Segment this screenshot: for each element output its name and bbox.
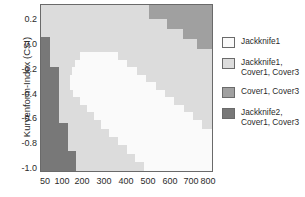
x-tick-label: 50 — [40, 176, 50, 187]
legend-swatch-icon — [222, 87, 235, 98]
legend-item[interactable]: Jackknife1 — [222, 36, 305, 48]
legend-item[interactable]: Jackknife1, Cover1, Cover3 — [222, 57, 305, 77]
x-axis-tick-labels: 50100200300400500600700800 — [0, 176, 305, 190]
legend-swatch-icon — [222, 37, 235, 48]
legend-item[interactable]: Cover1, Cover3 — [222, 86, 305, 98]
x-tick-label: 100 — [54, 176, 69, 187]
x-tick-label: 600 — [162, 176, 177, 187]
region-jackknife1-step — [135, 154, 212, 162]
region-jackknife1-step — [101, 120, 202, 128]
region-jackknife1-step — [73, 90, 164, 97]
chart-figure: Kurvenform-Index (CSI) 0.20.0-0.2-0.4-0.… — [0, 0, 305, 197]
region-cover1-cover3-step — [183, 29, 212, 39]
region-jackknife1-step — [80, 52, 118, 59]
region-jackknife1-step — [75, 60, 127, 67]
region-jackknife1-step — [94, 112, 193, 120]
y-tick-label: 0.0 — [24, 39, 37, 48]
region-jackknife1-step — [70, 75, 146, 82]
x-tick-label: 700 — [183, 176, 198, 187]
x-tick-label: 400 — [118, 176, 133, 187]
region-jackknife1-step — [72, 67, 137, 74]
region-jackknife2-cover1-cover3-step — [41, 37, 50, 67]
x-tick-label: 300 — [96, 176, 111, 187]
region-jackknife1-step — [87, 105, 184, 112]
region-jackknife1-step — [80, 97, 174, 104]
legend-swatch-icon — [222, 108, 235, 119]
region-cover1-cover3-step — [149, 5, 212, 19]
legend-swatch-icon — [222, 58, 235, 69]
region-jackknife1-step — [144, 162, 212, 171]
region-jackknife1-step — [70, 82, 156, 89]
region-jackknife1-step — [127, 145, 213, 153]
heatmap-canvas — [41, 5, 212, 171]
chart-legend: Jackknife1Jackknife1, Cover1, Cover3Cove… — [222, 36, 305, 136]
region-jackknife2-cover1-cover3-step — [41, 123, 68, 151]
region-jackknife1-step — [118, 137, 212, 145]
legend-item[interactable]: Jackknife2, Cover1, Cover3 — [222, 107, 305, 127]
y-tick-label: -1.0 — [21, 164, 37, 173]
y-tick-label: -0.2 — [21, 64, 37, 73]
legend-label: Cover1, Cover3 — [241, 86, 299, 96]
region-jackknife2-cover1-cover3-step — [41, 151, 76, 171]
y-tick-label: 0.2 — [24, 14, 37, 23]
x-tick-label: 500 — [140, 176, 155, 187]
region-jackknife1-step — [109, 129, 212, 137]
plot-area — [40, 4, 213, 172]
region-cover1-cover3-step — [197, 39, 212, 49]
x-tick-label: 200 — [74, 176, 89, 187]
legend-label: Jackknife2, Cover1, Cover3 — [241, 107, 299, 127]
y-axis-tick-labels: 0.20.0-0.2-0.4-0.6-0.8-1.0 — [12, 0, 37, 197]
y-tick-label: -0.4 — [21, 89, 37, 98]
x-tick-label: 800 — [200, 176, 215, 187]
region-cover1-cover3-step — [167, 19, 212, 29]
region-jackknife2-cover1-cover3-step — [41, 67, 59, 123]
y-tick-label: -0.6 — [21, 114, 37, 123]
y-tick-label: -0.8 — [21, 139, 37, 148]
legend-label: Jackknife1 — [241, 36, 280, 46]
legend-label: Jackknife1, Cover1, Cover3 — [241, 57, 299, 77]
